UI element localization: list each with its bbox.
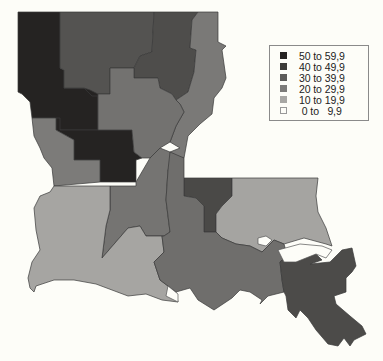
legend-label: 0 to 9,9 (299, 105, 342, 117)
legend-swatch (280, 63, 287, 70)
legend-row: 50 to 59,9 (280, 50, 368, 61)
legend-swatch (280, 85, 287, 92)
legend-row: 20 to 29,9 (280, 83, 368, 94)
legend-swatch (280, 107, 287, 114)
legend-row: 10 to 19,9 (280, 94, 368, 105)
legend-swatch (280, 96, 287, 103)
region-southeast (280, 248, 366, 346)
legend-swatch (280, 52, 287, 59)
legend-row: 40 to 49,9 (280, 61, 368, 72)
legend-swatch (280, 74, 287, 81)
legend: 50 to 59,9 40 to 49,9 30 to 39,9 20 to 2… (269, 45, 369, 121)
legend-row: 0 to 9,9 (280, 105, 368, 116)
legend-row: 30 to 39,9 (280, 72, 368, 83)
